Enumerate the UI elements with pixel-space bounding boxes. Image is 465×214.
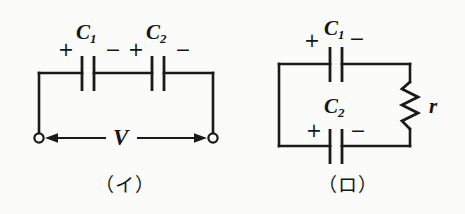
panel-ro-schematic <box>279 47 418 164</box>
label-c1-minus-ro: − <box>349 29 365 48</box>
terminal-right <box>208 133 217 142</box>
label-capacitor-c2: C2 <box>146 22 167 45</box>
circuit-figure: C1 C2 + − + − V （イ） C1 + − C2 + − r （ロ） <box>0 0 465 214</box>
label-capacitor-c1-ro: C1 <box>324 18 345 41</box>
label-resistor-r: r <box>429 96 437 117</box>
caption-panel-i: （イ） <box>95 176 155 195</box>
label-capacitor-c2-ro: C2 <box>324 96 345 119</box>
label-c1-plus-ro: + <box>304 31 320 50</box>
resistor-zigzag <box>402 82 418 129</box>
voltage-arrowhead-left <box>45 133 58 143</box>
label-c2-minus-ro: − <box>350 121 366 140</box>
label-voltage-v: V <box>113 126 128 149</box>
label-c1-minus: − <box>105 40 121 59</box>
circuit-schematic-svg <box>0 0 465 214</box>
caption-panel-ro: （ロ） <box>318 176 378 195</box>
label-c2-plus: + <box>128 40 144 59</box>
label-c1-plus: + <box>58 40 74 59</box>
label-capacitor-c1: C1 <box>76 22 97 45</box>
terminal-left <box>34 133 43 142</box>
label-c2-plus-ro: + <box>306 121 322 140</box>
voltage-arrowhead-right <box>194 133 207 143</box>
label-c2-minus: − <box>175 40 191 59</box>
